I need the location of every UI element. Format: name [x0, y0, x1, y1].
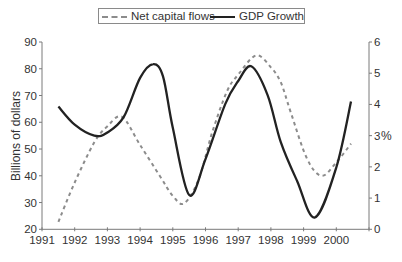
axes: 2030405060708090012345619911992199319941… — [24, 36, 381, 246]
y-tick-label: 30 — [24, 197, 37, 209]
y2-tick-label: 6 — [374, 36, 380, 48]
y-tick-label: 90 — [24, 36, 37, 48]
x-tick-label: 1999 — [291, 234, 317, 246]
y-tick-label: 40 — [24, 170, 37, 182]
y2-tick-label: 1 — [374, 192, 380, 204]
y-tick-label: 60 — [24, 116, 37, 128]
y2-tick-label: 5 — [374, 67, 380, 79]
dashed-line-swatch-icon — [102, 16, 127, 18]
legend-item-gdp-growth: GDP Growth — [210, 9, 304, 24]
y2-tick-label: 0 — [374, 223, 380, 235]
chart-plot: 2030405060708090012345619911992199319941… — [0, 0, 402, 262]
y2-tick-label: 2 — [374, 161, 380, 173]
legend-label-net-capital-flows: Net capital flows — [131, 9, 215, 24]
series — [58, 55, 351, 222]
x-tick-label: 1991 — [29, 234, 55, 246]
y2-tick-label: 4 — [374, 98, 381, 110]
series-line-gdp-growth — [58, 64, 351, 217]
x-tick-label: 1996 — [193, 234, 219, 246]
x-tick-label: 1994 — [127, 234, 153, 246]
y-axis-left-title: Billions of dollars — [9, 91, 23, 181]
x-tick-label: 2000 — [324, 234, 350, 246]
series-line-net-capital-flows — [58, 55, 351, 222]
y-tick-label: 50 — [24, 143, 37, 155]
y-axis-right-title: % — [381, 129, 392, 143]
x-tick-label: 1993 — [95, 234, 121, 246]
solid-line-swatch-icon — [210, 16, 235, 18]
x-tick-label: 1995 — [160, 234, 186, 246]
y-tick-label: 70 — [24, 90, 37, 102]
legend-item-net-capital-flows: Net capital flows — [102, 9, 215, 24]
legend-label-gdp-growth: GDP Growth — [239, 9, 304, 24]
x-tick-label: 1992 — [62, 234, 88, 246]
legend: Net capital flows GDP Growth — [98, 8, 305, 24]
y-tick-label: 80 — [24, 63, 37, 75]
x-tick-label: 1997 — [225, 234, 251, 246]
y2-tick-label: 3 — [374, 130, 380, 142]
x-tick-label: 1998 — [258, 234, 284, 246]
